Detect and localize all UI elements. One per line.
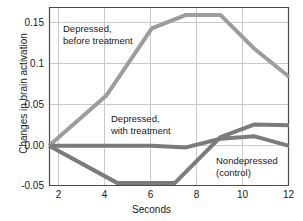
x-axis-label: Seconds bbox=[0, 204, 303, 215]
annotation-line-2: (control) bbox=[216, 167, 278, 179]
x-axis-tick-10: 10 bbox=[228, 189, 257, 200]
x-axis-tick-4: 4 bbox=[90, 189, 119, 200]
y-axis-tick-neg-0-05: -0.05 bbox=[3, 180, 44, 191]
x-axis-tick-8: 8 bbox=[182, 189, 211, 200]
annotation-line-2: with treatment bbox=[111, 125, 171, 137]
annotation-nondepressed-control: Nondepressed (control) bbox=[216, 155, 278, 178]
annotation-line-1: Depressed, bbox=[111, 113, 171, 125]
x-axis-tick-6: 6 bbox=[136, 189, 165, 200]
annotation-depressed-with-treatment: Depressed, with treatment bbox=[111, 113, 171, 136]
annotation-depressed-before-treatment: Depressed, before treatment bbox=[63, 23, 133, 46]
annotation-line-1: Depressed, bbox=[63, 23, 133, 35]
annotation-line-1: Nondepressed bbox=[216, 155, 278, 167]
x-axis-tick-12: 12 bbox=[274, 189, 303, 200]
chart-figure: 0.15 0.1 0.05 0.00 -0.05 2 4 6 8 10 12 C… bbox=[0, 0, 303, 221]
line-chart-plot bbox=[0, 0, 303, 221]
x-axis-tick-2: 2 bbox=[44, 189, 73, 200]
y-axis-label: Changes in brain activation bbox=[18, 19, 29, 169]
annotation-line-2: before treatment bbox=[63, 35, 133, 47]
